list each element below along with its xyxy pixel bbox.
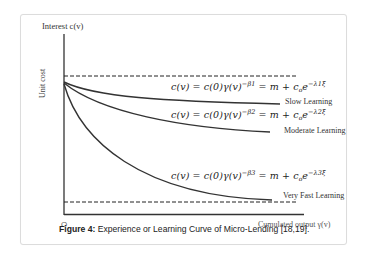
equation-slow: c(v) = c(0)γ(v)−β1 = m + coe−λ1ξ <box>171 80 326 93</box>
caption-prefix: Figure 4: <box>59 224 95 234</box>
equation-exponent: −λ1ξ <box>308 80 326 88</box>
equation-very-fast: c(v) = c(0)γ(v)−β3 = m + coe−λ3ξ <box>171 169 326 182</box>
equation-text: c(v) = c(0)γ(v) <box>171 109 242 120</box>
equation-text: = m + c <box>255 81 298 92</box>
equation-text: c(v) = c(0)γ(v) <box>171 170 242 181</box>
equation-text: = m + c <box>255 170 298 181</box>
equation-text: = m + c <box>255 109 298 120</box>
equation-exponent: −λ2ξ <box>308 108 326 116</box>
equation-exponent: −β1 <box>242 80 256 88</box>
label-moderate-learning: Moderate Learning <box>284 126 346 135</box>
equation-text: c(v) = c(0)γ(v) <box>171 81 242 92</box>
y-axis-label: Unit cost <box>38 69 47 98</box>
y-axis-title: Interest c(v) <box>42 21 83 31</box>
equation-exponent: −β2 <box>242 108 256 116</box>
equation-exponent: −λ3ξ <box>308 169 326 177</box>
equation-moderate: c(v) = c(0)γ(v)−β2 = m + coe−λ2ξ <box>171 108 326 121</box>
caption-text: Experience or Learning Curve of Micro-Le… <box>95 224 309 234</box>
label-very-fast-learning: Very Fast Learning <box>283 191 344 200</box>
label-slow-learning: Slow Learning <box>285 97 332 106</box>
figure-caption: Figure 4: Experience or Learning Curve o… <box>59 224 309 234</box>
equation-exponent: −β3 <box>242 169 256 177</box>
